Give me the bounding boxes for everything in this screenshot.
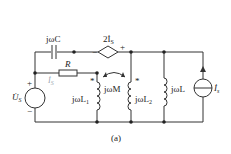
mutual-label: jωM: [103, 84, 120, 94]
svg-text:+: +: [27, 78, 32, 88]
svg-text:−: −: [27, 106, 32, 116]
current-source-label: İs: [213, 83, 220, 94]
inductor-L2-label: jωL2: [134, 94, 152, 105]
inductor-L-label: jωL: [170, 84, 185, 94]
svg-text:2İS: 2İS: [103, 34, 114, 45]
resistor-label: R: [64, 59, 71, 69]
voltage-source-label: U̇S: [12, 92, 22, 103]
inductor-L1-label: jωL1: [71, 94, 89, 105]
current-is-label: İS: [47, 76, 54, 86]
inductor-L2: * jωL2: [128, 76, 152, 110]
capacitor-label: jωC: [45, 34, 60, 44]
minus-sign: −: [92, 47, 97, 57]
svg-text:jωC: jωC: [45, 34, 60, 44]
inductor-L1: * jωL1: [71, 76, 100, 110]
capacitor: jωC: [45, 34, 60, 59]
inductor-L: jωL: [164, 78, 185, 106]
voltage-source: + − U̇S: [12, 78, 45, 116]
resistor: R: [59, 59, 77, 76]
svg-text:*: *: [90, 76, 95, 86]
dependent-source-label: 2İ: [103, 34, 111, 44]
circuit-diagram: jωC − + 2İS R İS + − U̇S * jωL1 jωM * jω…: [0, 0, 231, 154]
dependent-voltage-source: − + 2İS: [92, 34, 125, 58]
plus-sign: +: [120, 42, 125, 52]
svg-text:*: *: [135, 76, 140, 86]
mutual-inductance: jωM: [103, 72, 125, 94]
figure-caption: (a): [111, 133, 121, 143]
current-source: İs: [194, 66, 220, 97]
